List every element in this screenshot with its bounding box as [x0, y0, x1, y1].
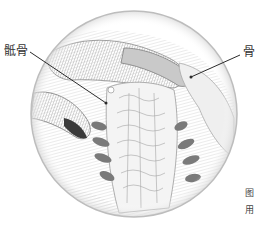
label-sacrum: 骶骨 — [4, 45, 28, 57]
anatomy-illustration — [29, 8, 239, 220]
label-bone: 骨 — [243, 46, 255, 58]
caption-line-2: 用 — [245, 206, 254, 215]
caption-line-1: 图 — [245, 189, 254, 198]
